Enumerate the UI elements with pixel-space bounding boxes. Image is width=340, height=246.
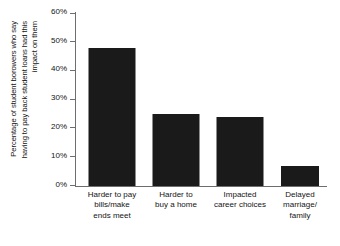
x-axis-label-harder-to-pay-bills: Harder to pay bills/make ends meet bbox=[74, 190, 150, 221]
y-axis-tick-10: 10% bbox=[70, 156, 75, 157]
x-axis-label-4-line-2: marriage/ bbox=[271, 200, 329, 210]
bar-delayed-marriage-family[interactable] bbox=[281, 166, 319, 186]
bar-slot-harder-to-buy-a-home bbox=[144, 13, 208, 186]
y-axis-tick-label-50: 50% bbox=[51, 36, 67, 46]
y-axis-title-line-2: having to pay back student loans had thi… bbox=[20, 21, 31, 197]
y-axis-tick-label-0: 0% bbox=[55, 180, 67, 190]
y-axis-tick-60: 60% bbox=[70, 13, 75, 14]
y-axis-tick-label-20: 20% bbox=[51, 122, 67, 132]
x-axis-label-4-line-3: family bbox=[271, 211, 329, 221]
bar-chart: Percentage of student borowers who say h… bbox=[0, 0, 340, 246]
bar-harder-to-buy-a-home[interactable] bbox=[153, 114, 200, 186]
y-axis-tick-50: 50% bbox=[70, 41, 75, 42]
bar-slot-delayed-marriage-family bbox=[272, 13, 327, 186]
y-axis-tick-20: 20% bbox=[70, 127, 75, 128]
x-axis-label-4-line-1: Delayed bbox=[271, 190, 329, 200]
bar-impacted-career-choices[interactable] bbox=[217, 117, 264, 186]
y-axis-tick-label-30: 30% bbox=[51, 93, 67, 103]
x-axis-label-impacted-career-choices: Impacted career choices bbox=[203, 190, 277, 211]
y-axis-tick-label-60: 60% bbox=[51, 7, 67, 17]
x-axis-label-3-line-1: Impacted bbox=[203, 190, 277, 200]
y-axis-tick-label-40: 40% bbox=[51, 64, 67, 74]
y-axis-tick-0: 0% bbox=[70, 185, 75, 186]
bar-slot-harder-to-pay-bills bbox=[80, 13, 144, 186]
x-axis-label-delayed-marriage-family: Delayed marriage/ family bbox=[271, 190, 329, 221]
y-axis-tick-label-10: 10% bbox=[51, 151, 67, 161]
plot-area: 0% 10% 20% 30% 40% 50% 60% bbox=[75, 13, 327, 186]
y-axis-tick-40: 40% bbox=[70, 70, 75, 71]
x-axis-label-2-line-2: buy a home bbox=[141, 200, 211, 210]
y-axis-title: Percentage of student borowers who say h… bbox=[9, 21, 51, 197]
x-axis-label-harder-to-buy-a-home: Harder to buy a home bbox=[141, 190, 211, 211]
x-axis-label-3-line-2: career choices bbox=[203, 200, 277, 210]
y-axis-title-line-3: impact on them bbox=[30, 21, 41, 197]
y-axis-tick-30: 30% bbox=[70, 99, 75, 100]
x-axis-label-1-line-1: Harder to pay bbox=[74, 190, 150, 200]
x-axis-label-2-line-1: Harder to bbox=[141, 190, 211, 200]
x-axis-line bbox=[75, 186, 327, 187]
y-axis-line bbox=[75, 12, 76, 186]
x-axis-label-1-line-2: bills/make bbox=[74, 200, 150, 210]
bar-harder-to-pay-bills[interactable] bbox=[89, 48, 136, 186]
y-axis-title-line-1: Percentage of student borowers who say bbox=[9, 21, 20, 197]
x-axis-label-1-line-3: ends meet bbox=[74, 211, 150, 221]
bar-slot-impacted-career-choices bbox=[208, 13, 272, 186]
